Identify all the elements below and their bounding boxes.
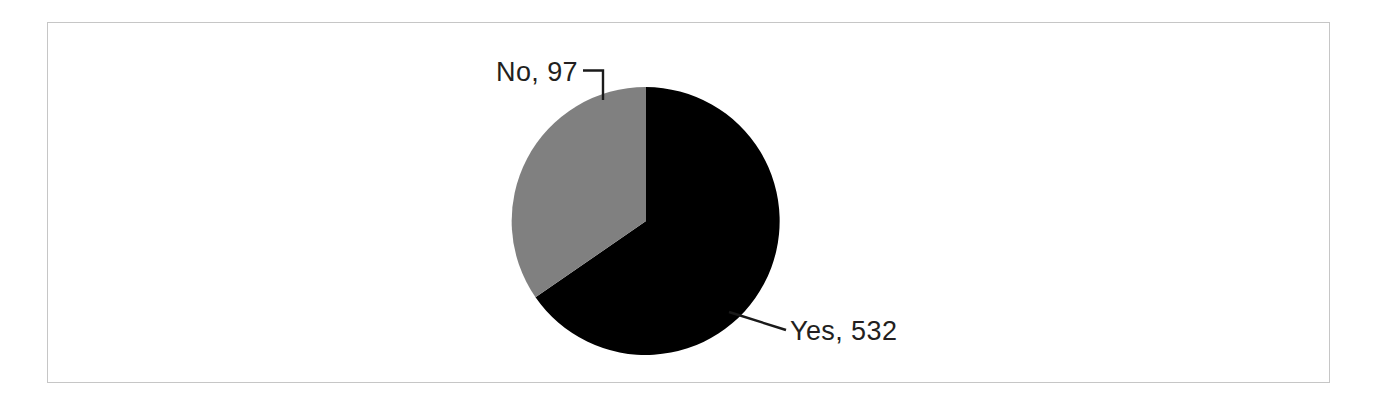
pie-label-yes: Yes, 532 (790, 316, 897, 346)
leader-line-yes (729, 312, 786, 330)
pie-label-no: No, 97 (496, 57, 578, 87)
pie-chart-figure: No, 97 Yes, 532 (0, 0, 1377, 402)
pie-chart-canvas: No, 97 Yes, 532 (0, 0, 1377, 402)
